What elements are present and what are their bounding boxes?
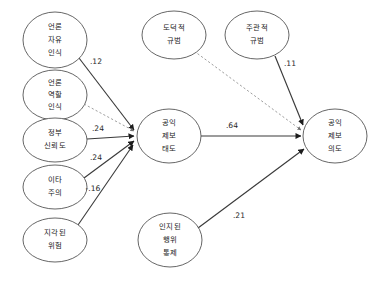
node-label-attitude-line1: 공익 [162,118,176,127]
node-label-intention-line2: 제보 [328,131,342,140]
edge-pbc-to-intention [198,149,304,228]
node-label-press-role-line3: 인식 [48,102,62,111]
node-shape-altruism [23,165,87,209]
node-label-attitude-line3: 태도 [162,144,176,153]
coefficient-press-freedom-attitude: .12 [90,57,102,66]
node-label-intention-line3: 의도 [328,144,342,153]
node-attitude: 공익 제보 태도 [137,109,201,163]
node-label-press-freedom-line3: 인식 [48,48,62,57]
node-label-subjective-norm-line2: 규범 [250,36,264,45]
node-group: 언론 자유 인식 언론 역할 인식 정부 신뢰도 이타 주의 [23,11,367,267]
node-label-pbc-line2: 행위 [163,235,177,244]
node-label-perceived-risk-line2: 위험 [48,241,62,250]
node-label-press-role-line2: 역할 [48,90,62,99]
coefficient-gov-trust-attitude: .24 [92,124,104,133]
node-label-gov-trust-line2: 신뢰도 [44,141,66,150]
node-altruism: 이타 주의 [23,165,87,209]
node-label-press-role-line1: 언론 [48,78,62,87]
node-label-perceived-risk-line1: 지각된 [44,228,66,237]
node-subjective-norm: 주관적 규범 [225,11,289,59]
node-perceived-risk: 지각된 위험 [23,218,87,262]
node-label-altruism-line1: 이타 [48,175,62,184]
node-label-pbc-line3: 통제 [163,248,177,257]
node-shape-moral-norm [142,11,206,59]
node-label-attitude-line2: 제보 [162,131,176,140]
node-label-gov-trust-line1: 정부 [48,128,62,137]
node-gov-trust: 정부 신뢰도 [23,118,87,162]
node-label-press-freedom-line2: 자유 [48,35,62,44]
node-intention: 공익 제보 의도 [303,109,367,163]
coefficient-perceived-risk-attitude: -.16 [86,184,101,193]
node-shape-gov-trust [23,118,87,162]
node-label-moral-norm-line2: 규범 [167,36,181,45]
node-press-freedom: 언론 자유 인식 [23,12,87,68]
path-diagram-canvas: 언론 자유 인식 언론 역할 인식 정부 신뢰도 이타 주의 [0,0,373,281]
node-label-subjective-norm-line1: 주관적 [246,23,268,32]
node-label-pbc-line1: 인지된 [159,222,181,231]
node-moral-norm: 도덕적 규범 [142,11,206,59]
edge-gov-trust-to-attitude [87,136,134,139]
node-shape-perceived-risk [23,218,87,262]
path-diagram-figure: 언론 자유 인식 언론 역할 인식 정부 신뢰도 이타 주의 [0,0,373,281]
node-label-press-freedom-line1: 언론 [48,22,62,31]
node-pbc: 인지된 행위 통제 [138,213,202,267]
coefficient-altruism-attitude: .24 [90,153,102,162]
coefficient-subjective-norm-intention: .11 [284,59,296,68]
node-press-role: 언론 역할 인식 [23,70,87,120]
node-label-moral-norm-line1: 도덕적 [163,23,185,32]
node-label-altruism-line2: 주의 [48,188,62,197]
coefficient-attitude-intention: .64 [226,121,238,130]
coefficient-pbc-intention: .21 [233,211,245,220]
node-label-intention-line1: 공익 [328,118,342,127]
node-shape-subjective-norm [225,11,289,59]
